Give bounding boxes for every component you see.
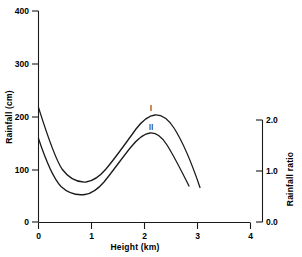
x-tick-label-2: 2 (135, 231, 155, 241)
y-axis-title-right: Rainfall ratio (285, 139, 295, 219)
x-tick-label-3: 3 (188, 231, 208, 241)
y-tick-label-0: 0 (1, 217, 29, 227)
y-axis-title-left: Rainfall (cm) (4, 82, 14, 152)
y-tick-label-300: 300 (1, 59, 29, 69)
series-curve-II (39, 133, 190, 195)
x-tick-label-0: 0 (29, 231, 49, 241)
left-axis-ticks (32, 11, 39, 222)
y-right-tick-label-2-0: 2.0 (266, 115, 296, 125)
chart-figure: 400 300 200 100 0 2.0 1.0 0.0 0 1 2 3 4 … (0, 0, 302, 257)
curve-label-II: II (144, 122, 158, 132)
right-axis-ticks (256, 120, 263, 222)
x-axis-title: Height (km) (80, 242, 190, 252)
y-tick-label-400: 400 (1, 6, 29, 16)
y-tick-label-100: 100 (1, 165, 29, 175)
bottom-axis-ticks (39, 223, 251, 230)
x-tick-label-1: 1 (82, 231, 102, 241)
series-curve-I (39, 108, 201, 188)
curve-label-I: I (144, 103, 158, 113)
x-tick-label-4: 4 (241, 231, 261, 241)
